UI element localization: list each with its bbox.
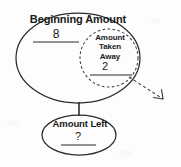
amount-taken-away-value: 2 — [90, 61, 120, 73]
beginning-amount-label: Beginning Amount — [26, 14, 130, 26]
beginning-amount-value: 8 — [34, 28, 78, 41]
amount-left-label: Amount Left — [48, 119, 112, 129]
amount-left-value: ? — [62, 131, 94, 143]
amount-taken-away-label-line-2: Taken — [99, 42, 121, 51]
removal-arrow-shaft — [129, 77, 163, 99]
amount-taken-away-label: AmountTakenAway — [88, 33, 132, 61]
removal-arrow-head — [154, 90, 164, 100]
diagram-canvas: Beginning Amount 8 AmountTakenAway 2 Amo… — [0, 0, 181, 167]
amount-taken-away-label-line-1: Amount — [95, 33, 125, 42]
